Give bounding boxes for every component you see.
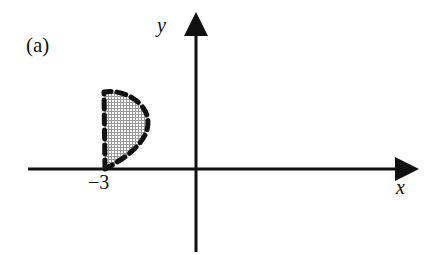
figure-panel: (a) y x −3 — [0, 0, 440, 255]
x-tick-label-neg3: −3 — [88, 171, 109, 194]
coordinate-plane-svg — [0, 0, 440, 255]
x-axis — [28, 157, 419, 181]
y-axis-label: y — [157, 14, 166, 37]
y-axis-arrowhead-icon — [184, 12, 208, 36]
shaded-region — [104, 92, 148, 169]
x-axis-label: x — [396, 176, 405, 199]
panel-label: (a) — [26, 33, 49, 58]
y-axis — [184, 12, 208, 252]
